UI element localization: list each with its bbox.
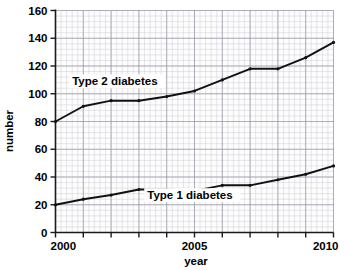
data-point <box>332 164 335 167</box>
data-point <box>82 198 85 201</box>
y-tick-label: 100 <box>28 88 47 100</box>
data-point <box>110 99 113 102</box>
data-point <box>82 105 85 108</box>
series-annotation-label: Type 2 diabetes <box>72 75 157 87</box>
data-point <box>276 67 279 70</box>
y-tick-label: 80 <box>35 116 48 128</box>
data-point <box>276 178 279 181</box>
series-annotation-label: Type 1 diabetes <box>147 189 232 201</box>
y-tick-label: 120 <box>28 60 47 72</box>
chart-canvas: 020406080100120140160 200020052010 numbe… <box>0 0 349 270</box>
y-axis-tick-labels: 020406080100120140160 <box>28 5 47 239</box>
x-tick-label: 2010 <box>313 240 339 252</box>
y-tick-label: 0 <box>41 227 47 239</box>
x-tick-label: 2000 <box>51 240 77 252</box>
data-point <box>332 41 335 44</box>
y-tick-label: 20 <box>35 199 48 211</box>
y-tick-label: 160 <box>28 5 47 17</box>
data-point <box>110 193 113 196</box>
data-point <box>193 89 196 92</box>
data-point <box>221 78 224 81</box>
x-tick-label: 2005 <box>182 240 208 252</box>
data-point <box>54 203 57 206</box>
y-tick-label: 140 <box>28 32 47 44</box>
data-point <box>249 184 252 187</box>
y-tick-label: 40 <box>35 171 48 183</box>
data-point <box>137 188 140 191</box>
data-point <box>304 56 307 59</box>
x-axis-tick-labels: 200020052010 <box>51 240 339 252</box>
y-tick-label: 60 <box>35 143 48 155</box>
x-axis-title: year <box>184 255 208 267</box>
data-point <box>304 173 307 176</box>
y-axis-title: number <box>3 109 15 152</box>
data-point <box>249 67 252 70</box>
data-point <box>221 184 224 187</box>
data-point <box>165 95 168 98</box>
line-chart: 020406080100120140160 200020052010 numbe… <box>0 0 349 270</box>
data-point <box>54 120 57 123</box>
data-point <box>137 99 140 102</box>
